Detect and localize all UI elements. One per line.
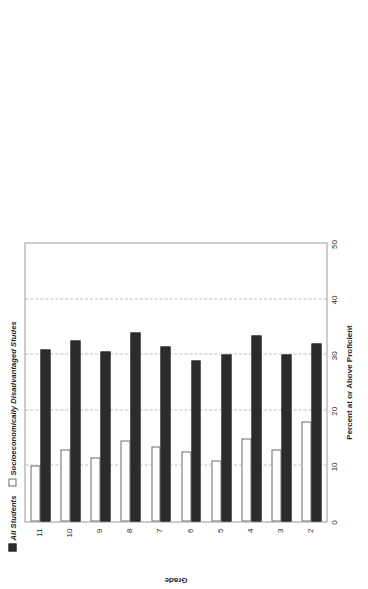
category-tick-label: 4 <box>245 528 254 532</box>
bar-group <box>55 243 85 521</box>
bar-sed <box>241 438 251 521</box>
chart-screenshot: All StudentsSocioeconomically Disadvanta… <box>0 0 368 589</box>
bar-sed <box>301 421 311 521</box>
value-tick-label: 30 <box>329 351 338 360</box>
chart-figure: All StudentsSocioeconomically Disadvanta… <box>0 0 368 589</box>
bar-group <box>266 243 296 521</box>
bar-group <box>236 243 266 521</box>
value-axis-ticks: 01020304050 <box>329 242 343 522</box>
bar-all-students <box>100 351 110 521</box>
category-tick-label: 3 <box>275 528 284 532</box>
legend-swatch-all-students <box>8 543 16 551</box>
chart-legend: All StudentsSocioeconomically Disadvanta… <box>8 321 17 551</box>
bar-sed <box>120 440 130 521</box>
bar-all-students <box>70 340 80 521</box>
bar-all-students <box>191 360 201 521</box>
category-tick-label: 10 <box>65 528 74 537</box>
category-tick-label: 8 <box>125 528 134 532</box>
category-axis-ticks: 234567891011 <box>24 525 327 561</box>
bar-sed <box>271 449 281 521</box>
bar-sed <box>211 460 221 521</box>
category-tick-label: 2 <box>305 528 314 532</box>
value-tick-label: 40 <box>329 295 338 304</box>
category-axis-title: Grade <box>24 573 327 587</box>
value-tick-label: 0 <box>329 520 338 524</box>
bar-all-students <box>130 332 140 521</box>
bar-all-students <box>311 343 321 521</box>
bar-all-students <box>221 354 231 521</box>
bar-all-students <box>251 335 261 521</box>
bar-group <box>85 243 115 521</box>
category-tick-label: 5 <box>215 528 224 532</box>
value-axis-title: Percent at or Above Proficient <box>344 242 353 522</box>
bar-all-students <box>160 346 170 521</box>
bar-sed <box>30 465 40 521</box>
bar-group <box>176 243 206 521</box>
category-tick-label: 7 <box>155 528 164 532</box>
bar-group <box>296 243 326 521</box>
legend-label-sed: Socioeconomically Disadvantaged Studes <box>8 321 17 475</box>
legend-swatch-sed <box>8 478 16 486</box>
bar-sed <box>60 449 70 521</box>
bar-group <box>115 243 145 521</box>
bar-sed <box>181 452 191 522</box>
bar-sed <box>151 446 161 521</box>
value-tick-label: 20 <box>329 406 338 415</box>
plot-area <box>24 242 327 522</box>
legend-label-all-students: All Students <box>8 495 17 540</box>
category-tick-label: 11 <box>35 528 44 536</box>
value-tick-label: 50 <box>329 240 338 249</box>
bar-all-students <box>40 349 50 521</box>
bar-all-students <box>281 354 291 521</box>
bar-group <box>145 243 175 521</box>
category-tick-label: 9 <box>95 528 104 532</box>
bar-group <box>25 243 55 521</box>
value-tick-label: 10 <box>329 462 338 471</box>
bar-sed <box>90 457 100 521</box>
category-tick-label: 6 <box>185 528 194 532</box>
bar-group <box>206 243 236 521</box>
